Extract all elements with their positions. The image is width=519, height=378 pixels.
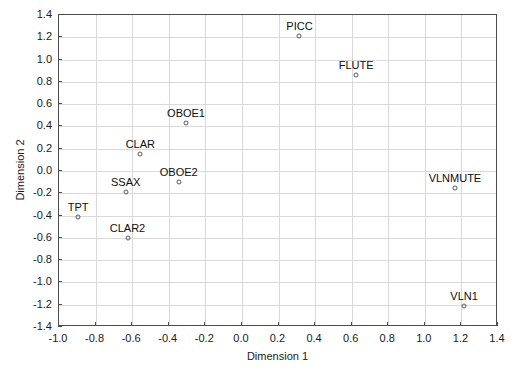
y-axis-tick-label: -1.2 xyxy=(20,298,52,310)
x-axis-tick-label: -0.8 xyxy=(85,332,104,344)
y-axis-tick-label: -0.4 xyxy=(20,209,52,221)
gridline-vertical xyxy=(279,15,280,325)
data-point-marker[interactable] xyxy=(138,152,143,157)
data-point-label: OBOE1 xyxy=(167,107,205,119)
plot-axes-area xyxy=(58,14,497,326)
x-axis-tick xyxy=(497,322,498,326)
x-axis-tick-label: 1.4 xyxy=(489,332,504,344)
y-axis-tick xyxy=(58,125,62,126)
data-point-marker[interactable] xyxy=(297,34,302,39)
data-point-marker[interactable] xyxy=(184,121,189,126)
y-axis-tick-label: 0.4 xyxy=(20,119,52,131)
x-axis-tick-label: -0.2 xyxy=(195,332,214,344)
gridline-horizontal xyxy=(59,60,496,61)
x-axis-tick-label: 0.0 xyxy=(233,332,248,344)
gridline-vertical xyxy=(425,15,426,325)
y-axis-tick xyxy=(58,259,62,260)
gridline-vertical xyxy=(461,15,462,325)
x-axis-tick xyxy=(95,322,96,326)
gridline-vertical xyxy=(96,15,97,325)
gridline-horizontal xyxy=(59,126,496,127)
x-axis-tick xyxy=(314,322,315,326)
data-point-marker[interactable] xyxy=(462,303,467,308)
gridline-horizontal xyxy=(59,282,496,283)
data-point-marker[interactable] xyxy=(76,214,81,219)
y-axis-tick xyxy=(58,148,62,149)
y-axis-tick-label: -0.6 xyxy=(20,231,52,243)
gridline-horizontal xyxy=(59,82,496,83)
y-axis-tick-label: 1.4 xyxy=(20,8,52,20)
y-axis-tick xyxy=(58,326,62,327)
y-axis-tick-label: 0.6 xyxy=(20,97,52,109)
data-point-label: SSAX xyxy=(111,176,140,188)
gridline-vertical xyxy=(242,15,243,325)
data-point-marker[interactable] xyxy=(452,185,457,190)
data-point-label: VLN1 xyxy=(450,290,478,302)
gridline-horizontal xyxy=(59,260,496,261)
y-axis-tick xyxy=(58,237,62,238)
data-point-marker[interactable] xyxy=(125,235,130,240)
y-axis-tick xyxy=(58,281,62,282)
data-point-label: CLAR xyxy=(126,138,155,150)
gridline-vertical xyxy=(132,15,133,325)
x-axis-tick xyxy=(278,322,279,326)
x-axis-tick xyxy=(424,322,425,326)
x-axis-tick xyxy=(387,322,388,326)
x-axis-tick xyxy=(168,322,169,326)
y-axis-tick-label: -0.8 xyxy=(20,253,52,265)
gridline-horizontal xyxy=(59,104,496,105)
data-point-label: TPT xyxy=(68,201,89,213)
y-axis-tick xyxy=(58,103,62,104)
data-point-marker[interactable] xyxy=(354,73,359,78)
y-axis-tick xyxy=(58,304,62,305)
x-axis-tick-label: 0.6 xyxy=(343,332,358,344)
y-axis-tick xyxy=(58,36,62,37)
x-axis-tick-label: 0.8 xyxy=(380,332,395,344)
y-axis-tick xyxy=(58,192,62,193)
y-axis-tick xyxy=(58,14,62,15)
x-axis-tick-label: 1.2 xyxy=(453,332,468,344)
scatter-plot-figure: -1.0-0.8-0.6-0.4-0.20.00.20.40.60.81.01.… xyxy=(0,0,519,378)
gridline-horizontal xyxy=(59,149,496,150)
y-axis-tick-label: -1.4 xyxy=(20,320,52,332)
x-axis-title: Dimension 1 xyxy=(247,350,308,362)
x-axis-tick xyxy=(241,322,242,326)
gridline-horizontal xyxy=(59,305,496,306)
gridline-vertical xyxy=(205,15,206,325)
y-axis-tick xyxy=(58,81,62,82)
x-axis-tick-label: -0.4 xyxy=(158,332,177,344)
x-axis-tick xyxy=(460,322,461,326)
y-axis-tick-label: -1.0 xyxy=(20,275,52,287)
y-axis-title: Dimension 2 xyxy=(14,139,26,200)
x-axis-tick xyxy=(351,322,352,326)
data-point-marker[interactable] xyxy=(176,180,181,185)
data-point-label: VLNMUTE xyxy=(429,172,482,184)
gridline-vertical xyxy=(388,15,389,325)
x-axis-tick xyxy=(204,322,205,326)
x-axis-tick-label: -0.6 xyxy=(122,332,141,344)
y-axis-tick-label: 1.0 xyxy=(20,53,52,65)
y-axis-tick-label: 0.8 xyxy=(20,75,52,87)
gridline-horizontal xyxy=(59,37,496,38)
y-axis-tick xyxy=(58,59,62,60)
y-axis-tick-label: 1.2 xyxy=(20,30,52,42)
x-axis-tick xyxy=(131,322,132,326)
y-axis-tick xyxy=(58,170,62,171)
x-axis-tick-label: 0.4 xyxy=(306,332,321,344)
x-axis-tick-label: -1.0 xyxy=(49,332,68,344)
data-point-label: CLAR2 xyxy=(110,222,145,234)
data-point-label: OBOE2 xyxy=(160,166,198,178)
data-point-label: FLUTE xyxy=(339,59,374,71)
y-axis-tick xyxy=(58,215,62,216)
x-axis-tick-label: 0.2 xyxy=(270,332,285,344)
x-axis-tick-label: 1.0 xyxy=(416,332,431,344)
gridline-horizontal xyxy=(59,216,496,217)
data-point-label: PICC xyxy=(286,20,312,32)
data-point-marker[interactable] xyxy=(123,190,128,195)
gridline-vertical xyxy=(315,15,316,325)
